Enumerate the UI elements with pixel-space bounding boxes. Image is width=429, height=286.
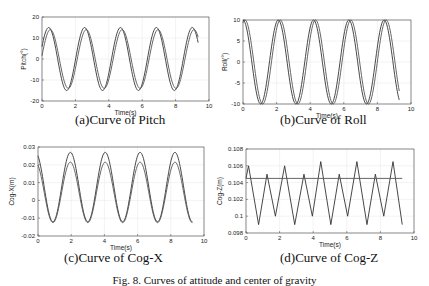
x-tick-label: 8 [379, 235, 383, 241]
y-tick-label: 0.104 [228, 180, 244, 186]
x-tick-label: 0 [40, 103, 44, 109]
x-tick-label: 10 [411, 235, 418, 241]
y-axis-label: Cog-Z(m) [216, 177, 224, 205]
x-tick-label: 6 [141, 103, 145, 109]
x-tick-label: 10 [206, 103, 213, 109]
x-tick-label: 10 [201, 238, 208, 244]
caption-cogz: (d)Curve of Cog-Z [280, 250, 378, 266]
y-tick-label: 10 [233, 17, 240, 23]
y-tick-label: 10 [32, 35, 39, 41]
y-axis-label: Roll(°) [221, 53, 229, 71]
x-tick-label: 8 [169, 238, 173, 244]
caption-roll: (b)Curve of Roll [280, 112, 367, 128]
y-tick-label: 0.108 [228, 146, 244, 152]
y-axis-label: Pitch(°) [20, 48, 28, 69]
caption-pitch: (a)Curve of Pitch [75, 112, 165, 128]
chart-pitch: 0246810-20-1001020Time(s)Pitch(°) [20, 14, 213, 117]
y-tick-label: 0.02 [23, 162, 35, 168]
x-tick-label: 8 [376, 106, 380, 112]
y-tick-label: -10 [30, 77, 39, 83]
y-tick-label: 0 [237, 59, 241, 65]
y-tick-label: -0.02 [21, 233, 35, 239]
x-tick-label: 6 [136, 238, 140, 244]
y-tick-label: 20 [32, 14, 39, 20]
x-axis-label: Time(s) [319, 241, 341, 249]
x-tick-label: 10 [408, 106, 415, 112]
figure-caption: Fig. 8. Curves of attitude and center of… [0, 274, 429, 286]
x-tick-label: 0 [244, 235, 248, 241]
x-tick-label: 0 [241, 106, 245, 112]
y-tick-label: 0 [32, 197, 36, 203]
x-tick-label: 4 [312, 235, 316, 241]
x-tick-label: 2 [74, 103, 78, 109]
x-tick-label: 6 [345, 235, 349, 241]
y-axis-label: Cog-X(m) [8, 177, 16, 205]
x-tick-label: 0 [36, 238, 40, 244]
x-tick-label: 2 [70, 238, 74, 244]
y-tick-label: 0.102 [228, 196, 244, 202]
y-tick-label: 0.01 [23, 180, 35, 186]
chart-roll: 0246810-10-50510Time(s)Roll(°) [221, 17, 415, 120]
chart-cogz: 02468100.0980.10.1020.1040.1060.108Time(… [216, 146, 418, 249]
series-line-1 [246, 162, 402, 225]
y-tick-label: -20 [30, 98, 39, 104]
y-tick-label: -10 [231, 101, 240, 107]
y-tick-label: 0 [36, 56, 40, 62]
x-tick-label: 4 [107, 103, 111, 109]
y-tick-label: -0.01 [21, 215, 35, 221]
y-tick-label: 0.1 [235, 213, 244, 219]
x-tick-label: 4 [103, 238, 107, 244]
y-tick-label: 0.106 [228, 163, 244, 169]
x-tick-label: 8 [174, 103, 178, 109]
y-tick-label: 0.03 [23, 144, 35, 150]
caption-cogx: (c)Curve of Cog-X [64, 250, 163, 266]
x-tick-label: 2 [275, 106, 279, 112]
chart-cogx: 0246810-0.02-0.0100.010.020.03Time(s)Cog… [8, 144, 208, 252]
y-tick-label: -5 [235, 80, 241, 86]
y-tick-label: 5 [237, 38, 241, 44]
x-tick-label: 2 [278, 235, 282, 241]
series-line-1 [38, 152, 192, 221]
y-tick-label: 0.098 [228, 230, 244, 236]
